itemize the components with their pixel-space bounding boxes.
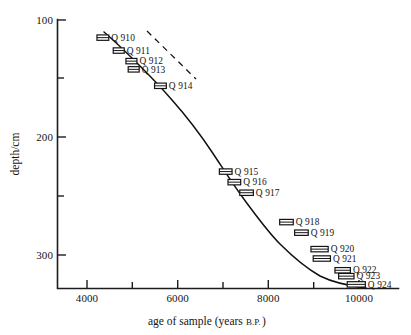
y-tick-label-300: 300 <box>36 249 53 261</box>
data-point-label: Q 915 <box>235 167 259 177</box>
data-point-label: Q 911 <box>127 46 151 56</box>
x-tick-labels: 4000 6000 8000 10000 <box>76 292 374 304</box>
x-axis-title-main: age of sample (years <box>148 315 243 328</box>
y-axis-title: depth/cm <box>9 133 22 176</box>
x-axis-title-smallcaps: B.P. <box>246 317 261 327</box>
x-tick-label-6000: 6000 <box>166 292 189 304</box>
data-point-label: Q 924 <box>368 280 392 290</box>
chart-figure: 100 200 300 4000 6000 8000 10000 depth/c… <box>0 0 411 335</box>
data-point-label: Q 917 <box>256 188 280 198</box>
data-point-label: Q 919 <box>311 228 335 238</box>
data-point-label: Q 910 <box>111 33 135 43</box>
y-tick-label-100: 100 <box>36 14 53 26</box>
data-markers-group <box>97 35 365 287</box>
data-point-label: Q 916 <box>243 177 267 187</box>
data-point-label: Q 921 <box>333 254 357 264</box>
x-axis-title: age of sample (years B.P. ) <box>148 315 266 328</box>
y-tick-labels: 100 200 300 <box>36 14 53 261</box>
data-labels-group: Q 910Q 911Q 912Q 913Q 914Q 915Q 916Q 917… <box>111 33 391 290</box>
y-tick-label-200: 200 <box>36 131 53 143</box>
data-point-label: Q 914 <box>169 81 193 91</box>
x-tick-label-4000: 4000 <box>76 292 99 304</box>
x-tick-label-8000: 8000 <box>257 292 280 304</box>
x-tick-label-10000: 10000 <box>345 292 373 304</box>
data-point-label: Q 918 <box>296 217 320 227</box>
chart-canvas: 100 200 300 4000 6000 8000 10000 depth/c… <box>0 0 411 335</box>
data-point-label: Q 913 <box>142 65 166 75</box>
x-axis-title-tail: ) <box>262 315 266 328</box>
